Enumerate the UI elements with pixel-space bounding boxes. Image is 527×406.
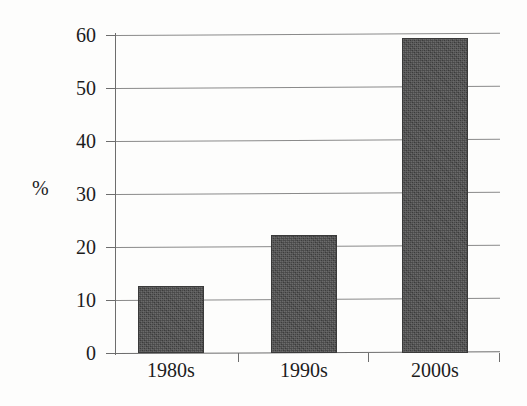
bar-chart-figure: 60 50 40 30 20 10 0 % 1980s 1990s 2000s <box>0 0 527 406</box>
x-tick-label-1980s: 1980s <box>116 360 226 380</box>
x-tick-1 <box>238 353 239 362</box>
y-tick-label-30: 30 <box>60 184 96 204</box>
x-tick-label-1990s: 1990s <box>249 360 359 380</box>
y-axis-tick-labels: 60 50 40 30 20 10 0 <box>60 0 96 406</box>
y-tick-label-40: 40 <box>60 131 96 151</box>
bar-1990s <box>271 235 337 353</box>
y-tick-label-10: 10 <box>60 290 96 310</box>
bar-2000s <box>402 38 468 353</box>
plot-area <box>115 30 500 353</box>
y-tick-label-0: 0 <box>60 343 96 363</box>
bar-1980s <box>138 286 204 353</box>
x-tick-label-2000s: 2000s <box>380 360 490 380</box>
y-tick-label-50: 50 <box>60 78 96 98</box>
y-tick-label-60: 60 <box>60 25 96 45</box>
x-tick-3 <box>499 353 500 362</box>
x-tick-2 <box>368 353 369 362</box>
y-axis-unit-label: % <box>32 178 49 198</box>
y-tick-0 <box>106 353 116 354</box>
y-tick-label-20: 20 <box>60 237 96 257</box>
